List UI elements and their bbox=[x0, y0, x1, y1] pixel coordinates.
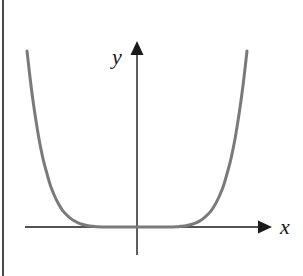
math-figure: y x bbox=[0, 0, 303, 276]
x-axis-arrow-icon bbox=[258, 221, 272, 234]
y-axis-label: y bbox=[112, 46, 122, 68]
y-axis-arrow-icon bbox=[131, 41, 144, 55]
axes-group bbox=[25, 41, 272, 255]
plot-canvas bbox=[0, 0, 303, 276]
x-axis-label: x bbox=[280, 216, 290, 238]
